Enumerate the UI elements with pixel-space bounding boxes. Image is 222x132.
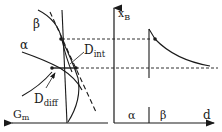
ddiff-leader: [46, 73, 55, 88]
gm-axis-label: Gm: [13, 108, 30, 122]
dashed-tangent: [50, 12, 96, 112]
tangent-line: [62, 10, 67, 123]
concentration-profile: [149, 29, 210, 66]
dint-label: Dint: [84, 43, 106, 59]
beta-curve: [38, 10, 72, 72]
dint-leader: [70, 52, 84, 64]
alpha-curve: [22, 52, 82, 90]
d-axis-label: d: [203, 108, 211, 122]
diagram-svg: β α Dint Ddiff Gm xB d α β: [0, 0, 222, 132]
ddiff-point-left: [50, 66, 54, 70]
profile-point: [153, 37, 157, 41]
xb-axis-label: xB: [118, 7, 130, 22]
region-beta-label: β: [160, 109, 166, 122]
beta-curve-label: β: [33, 17, 40, 31]
alpha-curve-label: α: [20, 38, 28, 52]
ddiff-label: Ddiff: [34, 92, 59, 108]
region-alpha-label: α: [128, 109, 136, 122]
diagram-canvas: β α Dint Ddiff Gm xB d α β: [0, 0, 222, 132]
